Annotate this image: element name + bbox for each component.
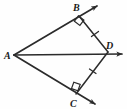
- vertex-label-b: B: [72, 2, 80, 13]
- ray-ac: [14, 55, 95, 104]
- right-angle-marker-c: [72, 82, 81, 91]
- vertex-label-a: A: [3, 50, 11, 61]
- ray-ab: [14, 6, 97, 55]
- segment-dc: [76, 52, 108, 94]
- geometry-figure: A B C D: [0, 0, 127, 109]
- figure-canvas: A B C D: [0, 0, 127, 109]
- vertex-label-c: C: [70, 98, 77, 109]
- vertex-label-d: D: [105, 40, 113, 51]
